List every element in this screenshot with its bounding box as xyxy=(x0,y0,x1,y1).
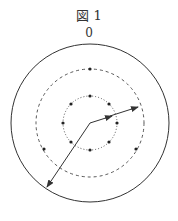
middle-dots xyxy=(42,67,137,150)
clock-diagram xyxy=(0,0,178,221)
long-hand-arrow xyxy=(47,123,90,187)
short-hand-arrow xyxy=(90,116,112,123)
short-hand-extension xyxy=(110,107,138,116)
